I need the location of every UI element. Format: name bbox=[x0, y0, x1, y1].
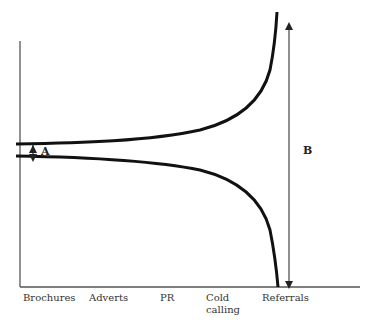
x-label-pr: PR bbox=[160, 292, 174, 304]
divergence-diagram bbox=[0, 0, 371, 326]
label-b: B bbox=[303, 144, 312, 157]
lower-curve bbox=[16, 156, 278, 287]
x-label-calling: calling bbox=[206, 304, 240, 316]
x-label-adverts: Adverts bbox=[89, 292, 128, 304]
x-label-brochures: Brochures bbox=[23, 292, 75, 304]
x-label-cold: Cold bbox=[206, 292, 229, 304]
label-a: A bbox=[41, 145, 50, 158]
x-label-referrals: Referrals bbox=[262, 292, 309, 304]
upper-curve bbox=[16, 12, 277, 144]
